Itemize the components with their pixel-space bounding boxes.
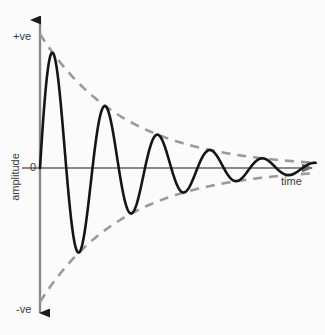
axis-label-zero: 0	[30, 161, 36, 173]
lower-envelope-curve	[40, 173, 316, 302]
damped-oscillation-figure: +ve -ve 0 amplitude time	[0, 0, 325, 335]
plot-canvas	[0, 0, 325, 335]
damped-oscillation-curve	[40, 53, 316, 253]
y-axis-title: amplitude	[9, 142, 21, 212]
upper-envelope-curve	[40, 34, 316, 163]
axis-label-positive: +ve	[13, 30, 31, 42]
x-axis-title: time	[281, 175, 302, 187]
axis-label-negative: -ve	[16, 303, 31, 315]
